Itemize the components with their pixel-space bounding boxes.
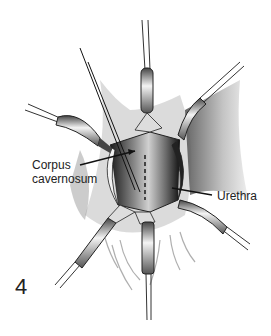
label-corpus-cavernosum: Corpus cavernosum [32,158,97,186]
surgical-illustration: Corpus cavernosum Urethra 4 [0,0,271,336]
retractor-upper-left [25,104,112,153]
figure-number: 4 [15,274,27,300]
retractor-lower-right [178,200,250,250]
label-corpus-line1: Corpus [32,158,97,172]
label-urethra: Urethra [217,189,257,203]
label-corpus-line2: cavernosum [32,172,97,186]
